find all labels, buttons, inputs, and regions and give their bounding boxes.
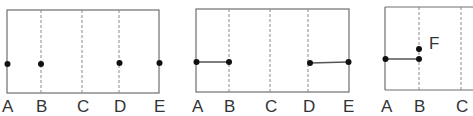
panel-1-label-c: C xyxy=(77,97,89,116)
panel-2-label-b: B xyxy=(224,97,235,116)
panel-2-label-d: D xyxy=(303,97,315,116)
panel-1-point-d xyxy=(117,60,123,66)
panel-1-label-b: B xyxy=(36,97,47,116)
panel-1-label-e: E xyxy=(154,97,165,116)
panel-3-point-f xyxy=(416,46,422,52)
panel-3-point-b xyxy=(416,56,422,62)
panel-1-point-b xyxy=(38,61,44,67)
panel-3-label-b: B xyxy=(414,97,425,116)
panel-3-point-a xyxy=(383,56,389,62)
panel-2-segment-de xyxy=(310,62,348,63)
panel-2-label-c: C xyxy=(265,97,277,116)
panel-1-point-a xyxy=(5,61,11,67)
panel-3: F A B C xyxy=(381,7,473,116)
panel-1-frame xyxy=(7,10,159,93)
panel-2-point-a xyxy=(194,59,200,65)
panel-2-label-a: A xyxy=(192,97,204,116)
panel-2-frame xyxy=(196,9,349,92)
panel-2-point-e xyxy=(346,59,352,65)
panel-2-point-b xyxy=(226,59,232,65)
panel-3-label-a: A xyxy=(381,97,393,116)
panel-1: A B C D E xyxy=(2,10,165,116)
panel-2-label-e: E xyxy=(343,97,354,116)
diagram-canvas: A B C D E A B C D E F A B C xyxy=(0,0,473,116)
panel-3-label-c: C xyxy=(456,97,468,116)
panel-2-point-d xyxy=(307,60,313,66)
panel-1-point-e xyxy=(157,60,163,66)
panel-1-label-d: D xyxy=(114,97,126,116)
panel-3-label-f: F xyxy=(429,34,439,53)
panel-1-label-a: A xyxy=(2,97,14,116)
panel-2: A B C D E xyxy=(192,9,354,116)
